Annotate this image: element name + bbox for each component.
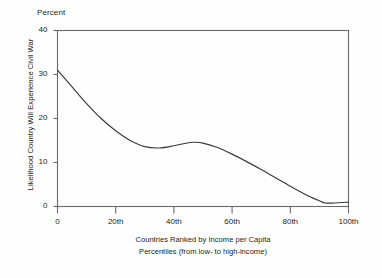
- x-tick-label: 100th: [332, 217, 366, 226]
- y-tick-label: 20: [32, 113, 48, 122]
- x-tick-label: 40th: [157, 217, 191, 226]
- y-tick-label: 0: [32, 201, 48, 210]
- x-axis-title-line-2: Percentiles (from low- to high-income): [57, 246, 349, 258]
- axis-ticks: [54, 31, 349, 214]
- x-axis-title-line-1: Countries Ranked by Income per Capita: [57, 234, 349, 246]
- y-tick-label: 10: [32, 157, 48, 166]
- x-axis-title: Countries Ranked by Income per Capita Pe…: [57, 234, 349, 258]
- x-tick-label: 60th: [215, 217, 249, 226]
- x-tick-label: 80th: [273, 217, 307, 226]
- civil-war-likelihood-line: [58, 70, 349, 203]
- data-series: [58, 70, 349, 203]
- y-tick-label: 30: [32, 69, 48, 78]
- y-tick-label: 40: [32, 25, 48, 34]
- chart-figure: Percent Likelihood Country Will Experien…: [0, 0, 382, 278]
- x-tick-label: 20th: [99, 217, 133, 226]
- x-tick-label: 0: [41, 217, 75, 226]
